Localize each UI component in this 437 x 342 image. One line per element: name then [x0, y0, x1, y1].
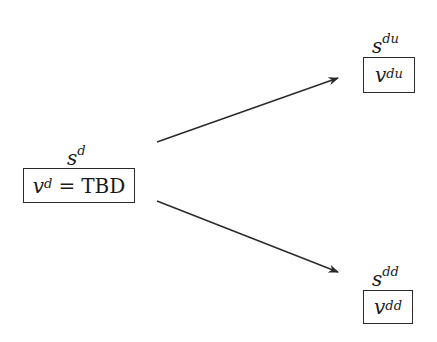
- up-value-symbol: v: [375, 63, 386, 87]
- down-state-symbol: s: [372, 267, 382, 291]
- down-value-symbol: v: [374, 295, 385, 319]
- up-value-superscript: du: [386, 66, 403, 81]
- down-value-superscript: dd: [385, 298, 402, 313]
- root-value: TBD: [81, 174, 125, 198]
- root-state-symbol: s: [67, 146, 77, 170]
- root-state-label: sd: [67, 143, 86, 168]
- up-value-box: vdu: [363, 57, 415, 93]
- down-state-label: sdd: [372, 264, 399, 289]
- root-state-superscript: d: [77, 143, 85, 158]
- edge-root-to-down: [157, 201, 338, 272]
- root-value-superscript: d: [44, 176, 52, 191]
- down-state-superscript: dd: [382, 264, 399, 279]
- up-state-superscript: du: [382, 31, 399, 46]
- up-state-label: sdu: [372, 31, 399, 56]
- root-value-symbol: v: [33, 174, 44, 198]
- edge-root-to-up: [157, 78, 338, 142]
- root-value-box: vd = TBD: [23, 168, 135, 203]
- equals-sign: =: [58, 174, 75, 198]
- down-value-box: vdd: [363, 290, 413, 324]
- up-state-symbol: s: [372, 34, 382, 58]
